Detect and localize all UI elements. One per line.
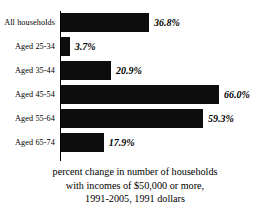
caption-line-2: with incomes of $50,000 or more, <box>0 179 270 193</box>
bar-row: Aged 45-54 66.0% <box>0 85 270 104</box>
bar-value-label: 17.9% <box>109 133 135 152</box>
plot-area: All households 36.8% Aged 25-34 3.7% Age… <box>0 0 270 165</box>
bar-aged-35-44 <box>61 61 111 80</box>
bar-value-label: 66.0% <box>224 85 250 104</box>
caption-line-1: percent change in number of households <box>0 165 270 179</box>
bar-value-label: 20.9% <box>116 61 142 80</box>
bar-value-label: 59.3% <box>208 109 234 128</box>
bar-row: Aged 55-64 59.3% <box>0 109 270 128</box>
category-label: All households <box>0 13 55 32</box>
category-label: Aged 45-54 <box>0 85 55 104</box>
chart-caption: percent change in number of households w… <box>0 165 270 206</box>
category-label: Aged 65-74 <box>0 133 55 152</box>
bar-aged-45-54 <box>61 85 219 104</box>
bar-row: Aged 25-34 3.7% <box>0 37 270 56</box>
bar-aged-55-64 <box>61 109 203 128</box>
caption-line-3: 1991-2005, 1991 dollars <box>0 192 270 206</box>
bar-row: All households 36.8% <box>0 13 270 32</box>
category-label: Aged 35-44 <box>0 61 55 80</box>
bar-aged-65-74 <box>61 133 104 152</box>
category-label: Aged 55-64 <box>0 109 55 128</box>
bar-row: Aged 35-44 20.9% <box>0 61 270 80</box>
bar-value-label: 36.8% <box>154 13 180 32</box>
bar-value-label: 3.7% <box>75 37 96 56</box>
bar-chart: All households 36.8% Aged 25-34 3.7% Age… <box>0 0 270 209</box>
category-label: Aged 25-34 <box>0 37 55 56</box>
bar-aged-25-34 <box>61 37 70 56</box>
bar-all-households <box>61 13 149 32</box>
bar-row: Aged 65-74 17.9% <box>0 133 270 152</box>
